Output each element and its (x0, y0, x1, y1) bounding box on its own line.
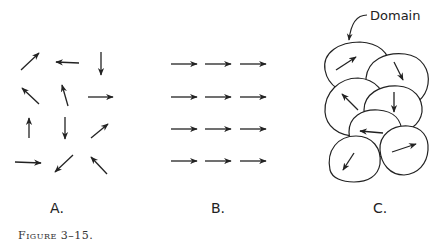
moment-arrow-icon (21, 53, 39, 70)
moment-arrow-icon (55, 155, 73, 172)
domain-annotation: Domain (370, 8, 420, 23)
moment-arrow-icon (62, 85, 68, 106)
panel-c-domains (325, 15, 429, 182)
panel-c-label: C. (373, 200, 387, 216)
panel-b-label: B. (211, 200, 225, 216)
panel-b-aligned-arrows (171, 64, 266, 161)
panel-a-random-arrows (15, 52, 113, 174)
moment-arrow-icon (91, 157, 107, 174)
domain-outline (329, 136, 380, 182)
moment-arrow-icon (22, 88, 39, 104)
moment-arrow-icon (15, 162, 41, 163)
magnetic-domain-figure: A. B. C. Domain (0, 0, 443, 251)
moment-arrow-icon (91, 124, 108, 138)
figure-caption: Figure 3–15. (18, 229, 93, 242)
moment-arrow-icon (56, 62, 79, 63)
panel-a-label: A. (50, 200, 64, 216)
domain-leader-arrow-icon (349, 15, 367, 40)
domain-outline (380, 126, 428, 175)
